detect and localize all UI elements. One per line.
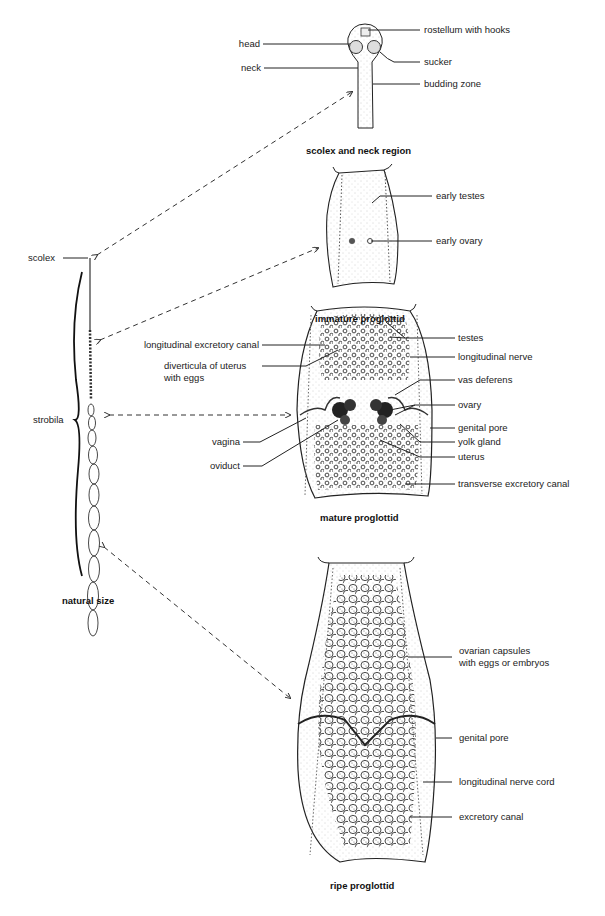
- label-vagina: vagina: [180, 436, 240, 448]
- label-excretory-canal: excretory canal: [459, 811, 523, 823]
- label-longitudinal-nerve: longitudinal nerve: [458, 351, 532, 363]
- label-ovarian-capsules-eggs: with eggs or embryos: [459, 657, 549, 669]
- label-head: head: [213, 38, 260, 50]
- label-transverse-excretory-canal: transverse excretory canal: [458, 478, 569, 490]
- label-ovarian-capsules: ovarian capsules: [459, 645, 530, 657]
- label-rostellum: rostellum with hooks: [424, 24, 510, 36]
- caption-natural-size: natural size: [62, 595, 114, 606]
- ripe-proglottid-drawing: [298, 557, 436, 862]
- immature-proglottid-drawing: [327, 164, 398, 287]
- mature-proglottid-drawing: [297, 304, 432, 498]
- label-longitudinal-excretory-canal: longitudinal excretory canal: [100, 339, 259, 351]
- label-oviduct: oviduct: [180, 460, 240, 472]
- caption-scolex-neck: scolex and neck region: [306, 145, 411, 156]
- label-ovary: ovary: [458, 399, 481, 411]
- caption-ripe-proglottid: ripe proglottid: [330, 880, 394, 891]
- label-sucker: sucker: [424, 56, 452, 68]
- caption-immature-proglottid: immature proglottid: [315, 313, 405, 324]
- label-genital-pore-ripe: genital pore: [459, 732, 509, 744]
- scolex-drawing: [348, 24, 383, 128]
- label-testes: testes: [458, 332, 483, 344]
- caption-mature-proglottid: mature proglottid: [320, 512, 399, 523]
- scolex-leader-lines: [263, 30, 420, 84]
- label-early-ovary: early ovary: [436, 235, 482, 247]
- label-longitudinal-nerve-cord: longitudinal nerve cord: [459, 776, 555, 788]
- label-diverticula-of-uterus: diverticula of uterus: [164, 360, 246, 372]
- tapeworm-anatomy-figure: head neck rostellum with hooks sucker bu…: [0, 0, 605, 916]
- label-scolex: scolex: [28, 252, 55, 264]
- label-neck: neck: [213, 62, 261, 74]
- label-early-testes: early testes: [436, 190, 485, 202]
- label-diverticula-with-eggs: with eggs: [164, 372, 204, 384]
- label-vas-deferens: vas deferens: [458, 374, 512, 386]
- label-uterus: uterus: [458, 451, 484, 463]
- whole-worm-drawing: [74, 258, 100, 636]
- label-yolk-gland: yolk gland: [458, 436, 501, 448]
- label-genital-pore-mature: genital pore: [458, 422, 508, 434]
- label-budding-zone: budding zone: [424, 78, 481, 90]
- label-strobila: strobila: [33, 414, 64, 426]
